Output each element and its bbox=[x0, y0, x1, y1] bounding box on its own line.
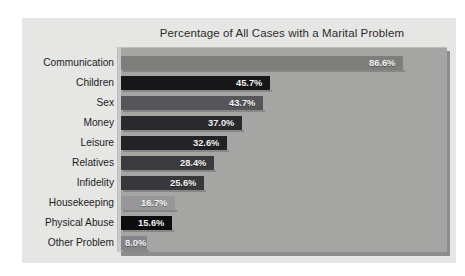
bar-row: Infidelity25.6% bbox=[0, 173, 465, 193]
bar-row: Housekeeping16.7% bbox=[0, 193, 465, 213]
bar-wrapper: 32.6% bbox=[121, 136, 447, 150]
bar-wrapper: 28.4% bbox=[121, 156, 447, 170]
bar-wrapper: 15.6% bbox=[121, 216, 447, 230]
bar-wrapper: 86.6% bbox=[121, 56, 447, 70]
bar-wrapper: 45.7% bbox=[121, 76, 447, 90]
bar-rows-container: Communication86.6%Children45.7%Sex43.7%M… bbox=[0, 0, 465, 276]
bar-wrapper: 8.0% bbox=[121, 236, 447, 250]
bar-wrapper: 43.7% bbox=[121, 96, 447, 110]
category-label: Money bbox=[22, 113, 114, 133]
category-label: Communication bbox=[22, 53, 114, 73]
category-label: Children bbox=[22, 73, 114, 93]
bar-value-label: 28.4% bbox=[180, 156, 206, 170]
bar-row: Sex43.7% bbox=[0, 93, 465, 113]
category-label: Sex bbox=[22, 93, 114, 113]
category-label: Housekeeping bbox=[22, 193, 114, 213]
bar-row: Communication86.6% bbox=[0, 53, 465, 73]
bar-value-label: 45.7% bbox=[236, 76, 262, 90]
category-label: Infidelity bbox=[22, 173, 114, 193]
bar-row: Relatives28.4% bbox=[0, 153, 465, 173]
category-label: Physical Abuse bbox=[22, 213, 114, 233]
bar-row: Children45.7% bbox=[0, 73, 465, 93]
bar-row: Leisure32.6% bbox=[0, 133, 465, 153]
bar-value-label: 16.7% bbox=[141, 196, 167, 210]
bar-wrapper: 37.0% bbox=[121, 116, 447, 130]
bar-value-label: 43.7% bbox=[229, 96, 255, 110]
category-label: Relatives bbox=[22, 153, 114, 173]
category-label: Other Problem bbox=[22, 233, 114, 253]
bar-wrapper: 25.6% bbox=[121, 176, 447, 190]
bar-value-label: 25.6% bbox=[170, 176, 196, 190]
bar bbox=[121, 56, 403, 70]
bar-row: Money37.0% bbox=[0, 113, 465, 133]
bar-wrapper: 16.7% bbox=[121, 196, 447, 210]
category-label: Leisure bbox=[22, 133, 114, 153]
bar-value-label: 15.6% bbox=[138, 216, 164, 230]
bar-value-label: 8.0% bbox=[125, 236, 146, 250]
bar-value-label: 32.6% bbox=[193, 136, 219, 150]
bar-value-label: 86.6% bbox=[369, 56, 395, 70]
chart-figure: Percentage of All Cases with a Marital P… bbox=[0, 0, 465, 276]
bar-row: Other Problem8.0% bbox=[0, 233, 465, 253]
bar-row: Physical Abuse15.6% bbox=[0, 213, 465, 233]
bar-value-label: 37.0% bbox=[208, 116, 234, 130]
